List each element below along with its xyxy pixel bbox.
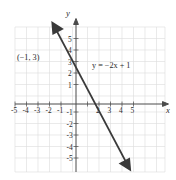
x-tick-label--3: -3 (34, 107, 40, 114)
x-tick-label-4: 4 (119, 107, 123, 114)
y-tick-label-2: 2 (68, 70, 72, 77)
graph-figure: -5 -4 -3 -2 -1 2 3 4 5 5 4 3 2 1 -1 -2 -… (0, 0, 176, 180)
x-tick-label-3: 3 (108, 107, 112, 114)
y-tick-label--3: -3 (67, 132, 73, 139)
x-tick-label--1: -1 (57, 107, 63, 114)
y-tick-label-5: 5 (68, 36, 72, 43)
y-tick-label-3: 3 (68, 59, 72, 66)
x-tick-label-5: 5 (131, 107, 135, 114)
x-tick-label--5: -5 (11, 107, 17, 114)
y-tick-label-4: 4 (68, 47, 72, 54)
y-tick-label-1: 1 (68, 82, 72, 89)
x-axis-label: x (166, 106, 170, 115)
y-tick-label--5: -5 (67, 155, 73, 162)
x-tick-label-2: 2 (96, 107, 100, 114)
x-tick-label--2: -2 (46, 107, 52, 114)
equation-label-annotation: y = −2x + 1 (92, 62, 130, 70)
y-tick-label--1: -1 (67, 109, 73, 116)
y-axis-label: y (66, 9, 70, 18)
point-label-annotation: (−1, 3) (17, 54, 39, 62)
y-tick-label--2: -2 (67, 121, 73, 128)
y-tick-label--4: -4 (67, 144, 73, 151)
grid-lines (15, 27, 165, 172)
y-axis-arrowhead (74, 19, 79, 25)
x-tick-label--4: -4 (23, 107, 29, 114)
coordinate-plane-svg (0, 0, 176, 180)
